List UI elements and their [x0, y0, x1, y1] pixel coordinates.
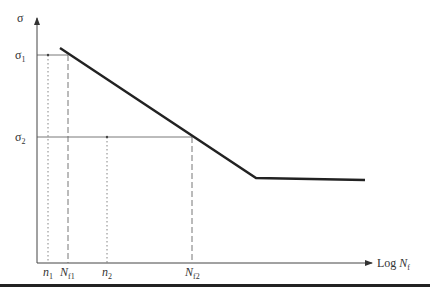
sigma1-label: σ1	[15, 48, 25, 64]
n2-point	[106, 136, 108, 138]
n2-label: n2	[102, 265, 112, 281]
Nf1-label: Nf1	[59, 265, 75, 281]
bottom-rule	[0, 284, 430, 287]
sigma2-label: σ2	[15, 130, 25, 146]
y-axis-label: σ	[17, 11, 24, 25]
n1-label: n1	[43, 265, 53, 281]
Nf2-label: Nf2	[184, 265, 200, 281]
n1-point	[47, 54, 49, 56]
sn-diagram: σ σ1 σ2 n1 Nf1 n2 Nf2 Log Nf	[0, 0, 430, 297]
sn-curve	[60, 48, 365, 180]
x-axis-label: Log Nf	[377, 256, 410, 272]
